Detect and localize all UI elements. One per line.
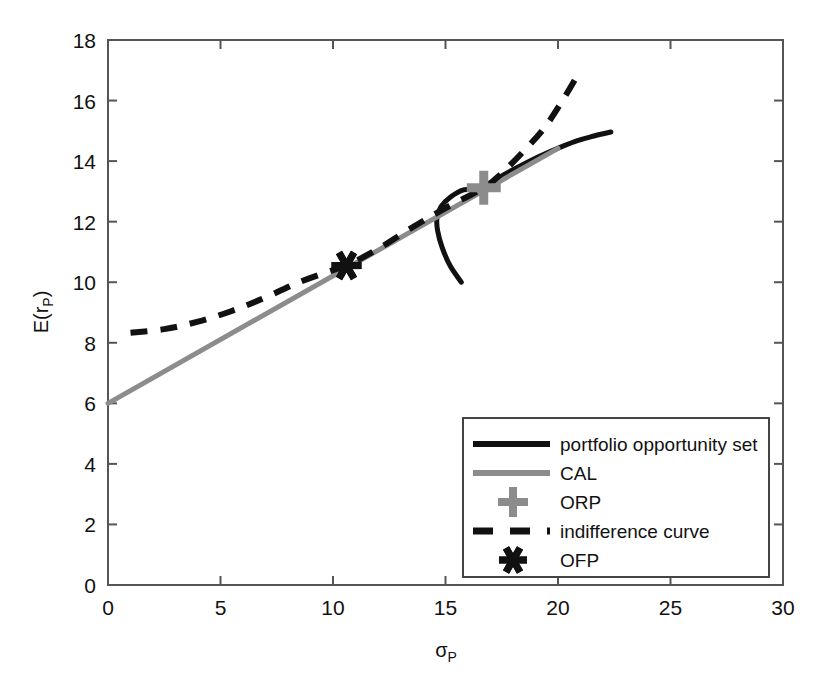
legend-label-ORP: ORP [560, 492, 601, 513]
svg-text:E(rP): E(rP) [30, 291, 56, 334]
y-tick-label: 12 [73, 211, 96, 234]
svg-text:σP: σP [435, 639, 457, 665]
legend-swatch-orp-v [509, 487, 517, 517]
y-axis-title-close: ) [30, 291, 52, 298]
x-tick-label: 20 [546, 596, 569, 619]
legend-label-portfolio-opportunity-set: portfolio opportunity set [560, 434, 758, 455]
y-tick-label: 6 [84, 392, 96, 415]
plot-canvas: 051015202530 024681012141618 E(rP) σP po… [0, 0, 828, 681]
y-axis-title: E(rP) [30, 291, 56, 334]
legend-label-indifference-curve: indifference curve [560, 521, 710, 542]
y-tick-label: 18 [73, 29, 96, 52]
marker-orp-v [479, 171, 488, 205]
x-tick-label: 15 [434, 596, 457, 619]
chart-legend[interactable]: portfolio opportunity setCALORPindiffere… [463, 418, 769, 577]
x-tick-label: 10 [321, 596, 344, 619]
legend-label-OFP: OFP [560, 550, 599, 571]
y-tick-label: 14 [73, 150, 97, 173]
y-tick-label: 10 [73, 271, 96, 294]
x-axis-title-main: σ [435, 639, 448, 661]
chart-figure: 051015202530 024681012141618 E(rP) σP po… [0, 0, 828, 681]
y-tick-label: 2 [84, 513, 96, 536]
y-tick-label: 16 [73, 90, 96, 113]
y-axis-tick-labels: 024681012141618 [73, 29, 97, 597]
y-tick-label: 0 [84, 574, 96, 597]
y-tick-label: 4 [84, 453, 96, 476]
y-tick-label: 8 [84, 332, 96, 355]
x-tick-label: 25 [659, 596, 682, 619]
x-axis-tick-labels: 051015202530 [102, 596, 795, 619]
y-axis-title-sub: P [40, 297, 56, 306]
x-axis-title-sub: P [448, 649, 457, 665]
x-tick-label: 0 [102, 596, 114, 619]
x-tick-label: 5 [215, 596, 227, 619]
x-axis-title: σP [435, 639, 457, 665]
y-axis-title-main: E(r [30, 306, 52, 333]
x-tick-label: 30 [771, 596, 794, 619]
legend-label-CAL: CAL [560, 463, 597, 484]
